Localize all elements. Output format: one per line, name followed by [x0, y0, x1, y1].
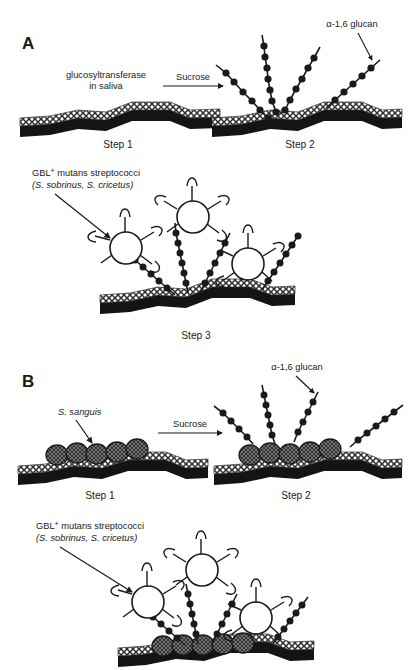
- alpha-1-6-glucan-label-b: α-1,6 glucan: [271, 362, 322, 372]
- s-sanguis-cell: [279, 444, 301, 464]
- gbl-mutans-label-line1-b: GBL+ mutans streptococci: [36, 520, 144, 531]
- cell-body: [132, 586, 164, 618]
- s-sanguis-cell: [106, 442, 128, 462]
- s-sanguis-cell: [299, 442, 321, 462]
- sucrose-label-b: Sucrose: [173, 419, 207, 429]
- figure-canvas: A glucosyltransferase in saliva Sucrose …: [0, 0, 414, 670]
- cell-body: [232, 248, 264, 280]
- s-sanguis-cell: [319, 439, 341, 459]
- panel-a-step2-label: Step 2: [285, 139, 315, 150]
- s-sanguis-cell: [86, 444, 108, 464]
- s-sanguis-cell: [66, 443, 88, 463]
- cell-body: [240, 602, 272, 634]
- s-sanguis-cell: [152, 636, 174, 656]
- panel-b-letter: B: [22, 372, 34, 391]
- panel-a-letter: A: [22, 34, 34, 53]
- glucosyltransferase-label-line1: glucosyltransferase: [66, 70, 146, 80]
- s-sanguis-cell: [46, 445, 68, 465]
- s-sanguis-label: S. sanguis: [58, 407, 102, 417]
- panel-a-step1-label: Step 1: [103, 139, 133, 150]
- s-sanguis-cell: [259, 443, 281, 463]
- gbl-mutans-label-line2-b: (S. sobrinus, S. cricetus): [36, 533, 137, 543]
- sucrose-label-a: Sucrose: [176, 72, 210, 82]
- s-sanguis-cell: [126, 439, 148, 459]
- cell-body: [110, 232, 142, 264]
- s-sanguis-cell: [192, 635, 214, 655]
- panel-a-step3-label: Step 3: [181, 330, 211, 341]
- panel-b-step1-label: Step 1: [85, 490, 115, 501]
- gbl-mutans-label-line2-a: (S. sobrinus, S. cricetus): [32, 180, 133, 190]
- panel-b-step2-label: Step 2: [281, 490, 311, 501]
- gbl-mutans-label-line1-a: GBL+ mutans streptococci: [32, 167, 140, 178]
- s-sanguis-cell: [239, 445, 261, 465]
- cell-body: [186, 554, 218, 586]
- s-sanguis-cell: [232, 633, 254, 653]
- cell-body: [177, 201, 209, 233]
- alpha-1-6-glucan-label-a: α-1,6 glucan: [326, 19, 377, 29]
- s-sanguis-cell-chain: [152, 633, 254, 656]
- glucosyltransferase-label-line2: in saliva: [89, 81, 123, 91]
